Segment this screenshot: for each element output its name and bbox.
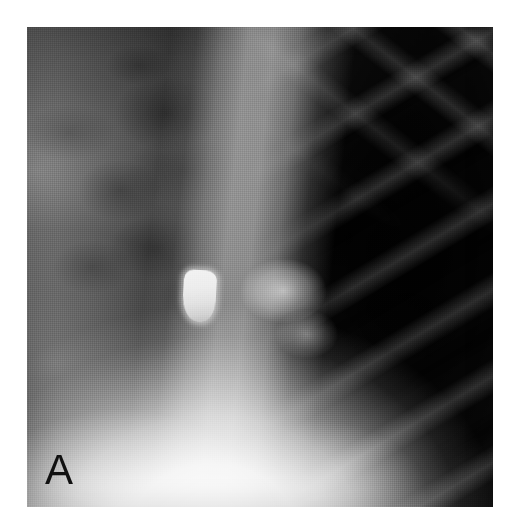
vignette-layer <box>27 27 493 507</box>
figure-panel: A <box>0 0 515 532</box>
radiograph-image <box>27 27 493 507</box>
panel-label: A <box>45 449 73 491</box>
